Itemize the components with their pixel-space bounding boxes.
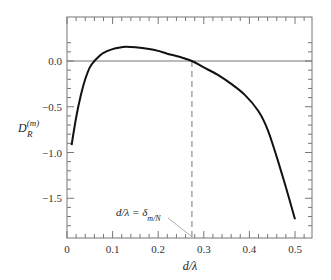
- x-axis-label: d/λ: [183, 259, 198, 273]
- annotation-label: d/λ = δm/N: [116, 206, 161, 223]
- y-tick-label: −1.0: [42, 147, 62, 159]
- annotation-leader-line: [168, 218, 191, 236]
- data-curve: [72, 47, 295, 220]
- x-tick-label: 0.2: [151, 243, 165, 255]
- x-tick-label: 0: [64, 243, 70, 255]
- tick-labels: 00.10.20.30.40.50.0−0.5−1.0−1.5: [42, 55, 302, 255]
- x-tick-label: 0.5: [288, 243, 302, 255]
- x-tick-label: 0.4: [243, 243, 257, 255]
- axis-ticks: [67, 17, 312, 238]
- plot-border: [67, 17, 312, 238]
- x-tick-label: 0.3: [197, 243, 211, 255]
- x-tick-label: 0.1: [106, 243, 120, 255]
- plot-frame: [67, 17, 312, 238]
- y-tick-label: −1.5: [42, 192, 62, 204]
- y-tick-label: −0.5: [42, 101, 62, 113]
- y-axis-label: D(m)R: [17, 118, 39, 139]
- line-chart: 00.10.20.30.40.50.0−0.5−1.0−1.5 d/λ = δm…: [0, 0, 331, 280]
- y-tick-label: 0.0: [48, 55, 62, 67]
